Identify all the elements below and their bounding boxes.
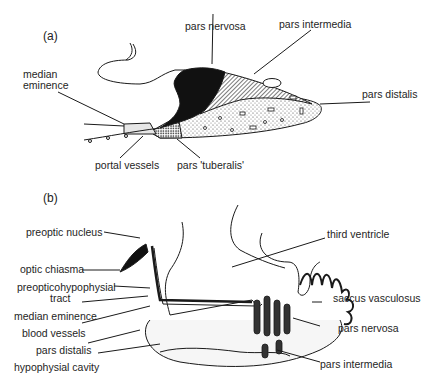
panel-a-drawing <box>58 14 370 158</box>
label-a-pars-distalis: pars distalis <box>362 88 417 100</box>
label-a-pars-tuberalis: pars 'tuberalis' <box>177 159 244 171</box>
label-b-hypophysial-cavity: hypophysial cavity <box>14 361 99 373</box>
label-b-pars-intermedia: pars intermedia <box>320 358 392 370</box>
label-b-preoptic-nucleus: preoptic nucleus <box>26 226 102 238</box>
label-b-pars-distalis: pars distalis <box>36 344 91 356</box>
label-b-optic-chiasma: optic chiasma <box>20 263 84 275</box>
label-a-portal-vessels: portal vessels <box>95 159 159 171</box>
label-b-saccus-vasculosus: saccus vasculosus <box>333 292 421 304</box>
panel-b-tag: (b) <box>43 191 58 205</box>
label-b-pars-nervosa: pars nervosa <box>338 322 399 334</box>
label-b-median-eminence: median eminence <box>14 310 97 322</box>
panel-a-tag: (a) <box>43 29 58 43</box>
label-a-pars-nervosa: pars nervosa <box>185 20 246 32</box>
label-b-preopticohypophysial-line2: tract <box>50 292 70 304</box>
label-a-median-eminence-line2: eminence <box>23 79 69 91</box>
label-a-pars-intermedia: pars intermedia <box>279 18 351 30</box>
label-b-blood-vessels: blood vessels <box>22 327 86 339</box>
label-b-third-ventricle: third ventricle <box>327 228 389 240</box>
panel-b-drawing <box>82 205 353 366</box>
